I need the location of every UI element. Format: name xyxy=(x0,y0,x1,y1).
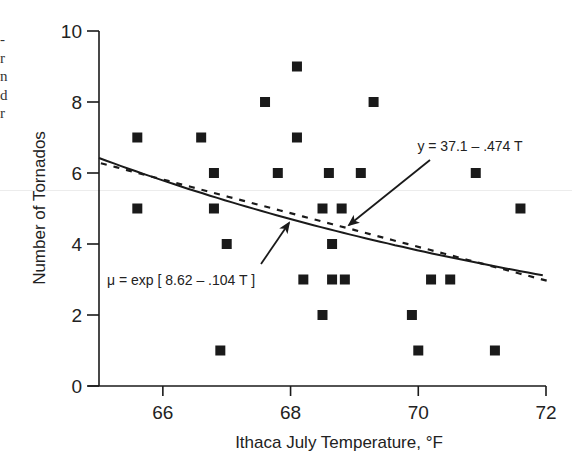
data-point-marker xyxy=(426,275,436,285)
data-point-marker xyxy=(292,62,302,72)
data-point-marker xyxy=(515,204,525,214)
y-axis-title: Number of Tornados xyxy=(30,131,49,285)
y-tick-label: 10 xyxy=(61,21,82,42)
poisson-equation-label: μ = exp [ 8.62 – .104 T ] xyxy=(107,272,255,288)
data-point-marker xyxy=(407,310,417,320)
x-tick-label: 68 xyxy=(280,402,301,423)
x-tick-label: 72 xyxy=(535,402,556,423)
y-tick-label: 6 xyxy=(71,163,82,184)
linear-fit-line xyxy=(101,163,549,281)
y-tick-label: 4 xyxy=(71,234,82,255)
linear-equation-label: y = 37.1 – .474 T xyxy=(417,138,523,154)
data-point-marker xyxy=(490,346,500,356)
data-point-marker xyxy=(356,168,366,178)
data-point-marker xyxy=(132,133,142,143)
data-point-marker xyxy=(209,204,219,214)
y-ticks: 0246810 xyxy=(61,21,99,397)
x-ticks: 66687072 xyxy=(152,386,556,423)
data-point-marker xyxy=(337,204,347,214)
data-point-marker xyxy=(324,168,334,178)
data-point-marker xyxy=(445,275,455,285)
data-point-marker xyxy=(292,133,302,143)
data-point-marker xyxy=(369,97,379,107)
data-point-marker xyxy=(132,204,142,214)
axes: 66687072 0246810 xyxy=(61,21,557,423)
x-axis-title: Ithaca July Temperature, °F xyxy=(235,433,443,452)
data-point-marker xyxy=(260,97,270,107)
annotation-poisson: μ = exp [ 8.62 – .104 T ] xyxy=(107,223,289,288)
scatter-chart: 66687072 0246810 Ithaca July Temperature… xyxy=(0,0,572,476)
data-point-marker xyxy=(209,168,219,178)
data-point-marker xyxy=(327,275,337,285)
annotation-linear: y = 37.1 – .474 T xyxy=(349,138,523,225)
data-point-marker xyxy=(413,346,423,356)
data-point-marker xyxy=(471,168,481,178)
data-point-marker xyxy=(327,239,337,249)
y-tick-label: 0 xyxy=(71,376,82,397)
data-point-marker xyxy=(222,239,232,249)
arrow-icon xyxy=(261,223,289,264)
data-point-marker xyxy=(340,275,350,285)
y-tick-label: 2 xyxy=(71,305,82,326)
data-point-marker xyxy=(215,346,225,356)
x-tick-label: 70 xyxy=(408,402,429,423)
data-points xyxy=(132,62,525,356)
y-tick-label: 8 xyxy=(71,92,82,113)
data-point-marker xyxy=(298,275,308,285)
data-point-marker xyxy=(318,204,328,214)
data-point-marker xyxy=(196,133,206,143)
data-point-marker xyxy=(318,310,328,320)
data-point-marker xyxy=(273,168,283,178)
x-tick-label: 66 xyxy=(152,402,173,423)
